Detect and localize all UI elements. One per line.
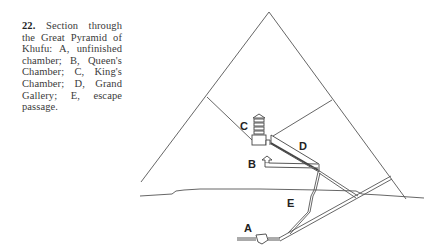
label-a: A (244, 222, 252, 234)
pyramid-outline (141, 12, 406, 199)
label-b: B (248, 158, 256, 170)
left-interior-line (207, 97, 252, 140)
label-e: E (287, 197, 294, 209)
kings-chamber (252, 114, 270, 145)
label-c: C (240, 120, 248, 132)
unfinished-chamber (237, 234, 280, 244)
pyramid-section-diagram: C D B E A (0, 0, 441, 250)
right-interior-line (273, 100, 332, 136)
label-d: D (299, 140, 307, 152)
passages (279, 170, 392, 241)
ground-line (140, 189, 424, 198)
